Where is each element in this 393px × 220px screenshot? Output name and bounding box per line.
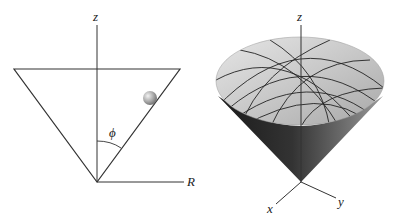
x-label: x xyxy=(266,201,273,216)
left-panel: z R ϕ xyxy=(14,9,195,189)
angle-arc xyxy=(97,141,121,148)
z-label-left: z xyxy=(92,9,98,24)
x-axis xyxy=(276,182,301,204)
figure-canvas: z R ϕ z x y xyxy=(0,0,393,220)
z-label-right: z xyxy=(296,9,302,24)
ball xyxy=(143,91,157,105)
y-axis xyxy=(301,182,336,198)
phi-label: ϕ xyxy=(109,125,116,140)
r-label: R xyxy=(186,174,195,189)
right-panel: z x y xyxy=(216,9,384,216)
y-label: y xyxy=(336,194,344,209)
